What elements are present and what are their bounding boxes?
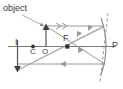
image-label: I — [15, 38, 18, 47]
diagram-canvas — [0, 0, 123, 89]
center-of-curvature-label: C — [30, 48, 36, 56]
object-pointer-line — [22, 15, 44, 26]
focus-point — [65, 44, 69, 48]
ray-through-focus-incident — [46, 26, 105, 64]
focus-label: F — [63, 34, 69, 43]
object-arrow-head — [43, 24, 50, 31]
reflected-ray-arrowhead-2 — [77, 31, 82, 37]
object-foot-label: O — [42, 48, 48, 56]
ray-diagram-figure: object I C O F P — [0, 0, 123, 89]
focus-ray-arrowhead — [78, 47, 84, 53]
reflected-parallel-ray-arrowhead — [60, 61, 66, 67]
pole-label: P — [112, 41, 118, 50]
object-label: object — [3, 4, 27, 13]
